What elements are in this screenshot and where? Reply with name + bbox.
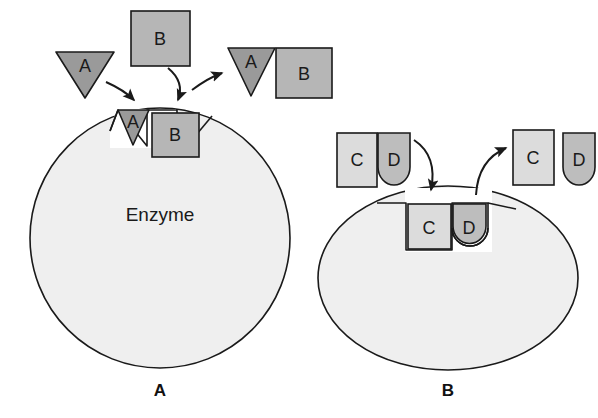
- product-c-label: C: [527, 148, 540, 168]
- free-substrate-b-label: B: [154, 29, 166, 49]
- enzyme-substrate-diagram: Enzyme A B A B A B: [0, 0, 598, 418]
- bound-substrate-cd: C D: [408, 204, 486, 249]
- product-d: D: [563, 133, 595, 185]
- bound-substrate-b-label: B: [169, 125, 181, 145]
- free-substrate-b: B: [131, 11, 190, 66]
- panel-b-label: B: [442, 381, 454, 400]
- free-substrate-c-label: C: [351, 150, 364, 170]
- enzyme-label-a: Enzyme: [126, 204, 195, 225]
- free-substrate-cd: C D: [337, 133, 410, 187]
- bound-substrate-d-label: D: [463, 218, 476, 238]
- bound-substrate-b: B: [152, 113, 199, 157]
- product-a-label: A: [245, 52, 257, 72]
- product-b-label: B: [298, 64, 310, 84]
- free-substrate-a-label: A: [79, 56, 91, 76]
- product-c: C: [513, 130, 554, 185]
- bound-substrate-c-label: C: [423, 218, 436, 238]
- panel-a-label: A: [154, 381, 166, 400]
- product-d-label: D: [573, 150, 586, 170]
- bound-substrate-a-label: A: [127, 112, 139, 132]
- free-substrate-d-label: D: [388, 150, 401, 170]
